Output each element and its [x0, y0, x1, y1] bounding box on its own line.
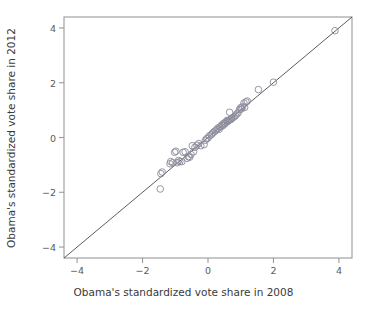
y-tick-label: 4: [50, 22, 56, 33]
x-tick-label: −2: [136, 265, 150, 276]
y-axis-title: Obama's standardized vote share in 2012: [5, 28, 17, 248]
y-tick-label: 0: [50, 132, 56, 143]
y-tick-label: −4: [42, 242, 56, 253]
y-tick-label: −2: [42, 187, 56, 198]
x-tick-label: −4: [70, 265, 84, 276]
data-point-group: [157, 27, 338, 192]
plot-canvas: [0, 0, 367, 310]
scatter-plot-figure: −4−2024 −4−2024 Obama's standardized vot…: [0, 0, 367, 310]
x-tick-label: 0: [205, 265, 211, 276]
y-axis-title-container: Obama's standardized vote share in 2012: [0, 0, 22, 275]
x-tick-label: 4: [336, 265, 342, 276]
identity-reference-line: [64, 17, 352, 258]
x-axis-title: Obama's standardized vote share in 2008: [0, 286, 367, 298]
y-tick-label: 2: [50, 77, 56, 88]
x-tick-label: 2: [270, 265, 276, 276]
